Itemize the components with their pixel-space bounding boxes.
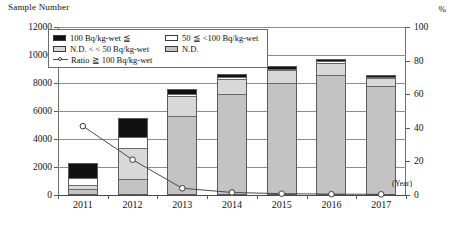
y-axis-left-tick-label: 12000	[2, 22, 52, 32]
legend-swatch-lightgray-icon	[53, 46, 66, 52]
legend-row: 100 Bq/kg-wet ≦ 50 ≦ <100 Bq/kg-wet	[53, 32, 264, 43]
legend-label: N.D. < < 50 Bq/kg-wet	[70, 44, 149, 54]
y-axis-left-tick-label: 2000	[2, 162, 52, 172]
y-axis-left-tick-label: 10000	[2, 50, 52, 60]
legend-line-marker-icon	[53, 56, 68, 63]
ratio-line-path	[83, 126, 381, 194]
y-axis-right-tick-label: 60	[414, 89, 448, 99]
legend-row: N.D. < < 50 Bq/kg-wet N.D.	[53, 43, 264, 54]
legend-label: Ratio ≧ 100 Bq/kg-wet	[71, 55, 152, 65]
y-axis-left-tick-label: 4000	[2, 134, 52, 144]
ratio-marker-2013	[179, 185, 185, 191]
legend-item-ratio: Ratio ≧ 100 Bq/kg-wet	[53, 55, 152, 65]
y-axis-right-tick-label: 80	[414, 56, 448, 66]
chart-container: Sample Number % 120001000080006000400020…	[0, 0, 454, 226]
x-axis-unit-label: (Year)	[392, 179, 412, 188]
y-axis-title-right: %	[439, 4, 447, 14]
chart-legend: 100 Bq/kg-wet ≦ 50 ≦ <100 Bq/kg-wet N.D.…	[48, 29, 268, 68]
ratio-marker-2017	[378, 192, 384, 198]
legend-swatch-gray-icon	[165, 46, 178, 52]
y-axis-right-tick-label: 40	[414, 123, 448, 133]
ratio-marker-2016	[329, 191, 335, 197]
x-axis-tickmark	[257, 195, 258, 199]
legend-item-50-to-100: 50 ≦ <100 Bq/kg-wet	[165, 33, 258, 43]
x-axis-tick-label-2017: 2017	[351, 199, 411, 210]
ratio-marker-2015	[279, 191, 285, 197]
legend-row: Ratio ≧ 100 Bq/kg-wet	[53, 54, 264, 65]
x-axis-tickmark	[58, 195, 59, 199]
legend-swatch-white-icon	[165, 35, 178, 41]
legend-label: 100 Bq/kg-wet ≦	[70, 33, 131, 43]
y-axis-right-tick-label: 0	[414, 190, 448, 200]
ratio-marker-2014	[229, 190, 235, 196]
y-axis-left-tick-label: 0	[2, 190, 52, 200]
x-axis-tickmark	[307, 195, 308, 199]
y-axis-right-tick-label: 100	[414, 22, 448, 32]
y-axis-title-left: Sample Number	[8, 2, 69, 12]
y-axis-left-tick-label: 8000	[2, 78, 52, 88]
x-axis-tickmark	[207, 195, 208, 199]
ratio-marker-2012	[130, 157, 136, 163]
x-axis-tickmark	[157, 195, 158, 199]
legend-swatch-black-icon	[53, 35, 66, 41]
y-axis-right-tick-label: 20	[414, 156, 448, 166]
y-axis-left-tick-label: 6000	[2, 106, 52, 116]
legend-item-nd: N.D.	[165, 44, 199, 54]
legend-label: N.D.	[182, 44, 199, 54]
x-axis-tickmark	[406, 195, 407, 199]
x-axis-tickmark	[356, 195, 357, 199]
legend-item-100-and-above: 100 Bq/kg-wet ≦	[53, 33, 165, 43]
legend-label: 50 ≦ <100 Bq/kg-wet	[182, 33, 258, 43]
legend-item-nd-to-50: N.D. < < 50 Bq/kg-wet	[53, 44, 165, 54]
x-axis-tickmark	[108, 195, 109, 199]
ratio-marker-2011	[80, 123, 86, 129]
